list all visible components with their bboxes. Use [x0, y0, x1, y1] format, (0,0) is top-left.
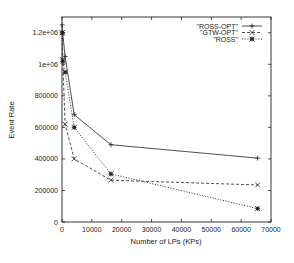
y-tick-label: 0 [54, 219, 58, 226]
x-tick-label: 60000 [231, 226, 251, 233]
plot-frame [62, 17, 271, 222]
y-tick-label: 200000 [35, 187, 58, 194]
y-tick-label: 1.2e+06 [33, 29, 59, 36]
y-tick-label: 1e+06 [38, 61, 58, 68]
legend: "ROSS-OPT""GTW-OPT""ROSS" [196, 23, 262, 43]
x-tick-label: 0 [60, 226, 64, 233]
x-tick-label: 30000 [142, 226, 162, 233]
series-0 [60, 22, 260, 160]
x-axis-ticks: 010000200003000040000500006000070000 [60, 17, 281, 233]
x-tick-label: 50000 [202, 226, 222, 233]
y-tick-label: 800000 [35, 92, 58, 99]
y-axis-ticks: 02000004000006000008000001e+061.2e+06 [33, 29, 272, 225]
x-axis-label: Number of LPs (KPs) [131, 237, 202, 246]
legend-label: "ROSS" [213, 36, 238, 43]
series-2 [60, 30, 260, 211]
data-series [60, 22, 260, 211]
x-tick-label: 20000 [112, 226, 132, 233]
y-tick-label: 400000 [35, 155, 58, 162]
series-1 [60, 30, 260, 187]
line-chart: 010000200003000040000500006000070000 020… [0, 0, 294, 263]
x-tick-label: 40000 [172, 226, 192, 233]
x-tick-label: 70000 [261, 226, 281, 233]
x-tick-label: 10000 [82, 226, 102, 233]
y-tick-label: 600000 [35, 124, 58, 131]
y-axis-label: Event Rate [7, 101, 16, 138]
